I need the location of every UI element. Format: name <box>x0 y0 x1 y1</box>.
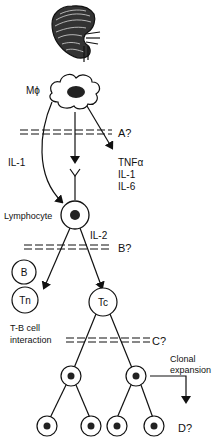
il1-label: IL-1 <box>8 157 26 168</box>
checkpoint-b-line <box>24 245 112 249</box>
tc-cell-label: Tc <box>98 297 108 308</box>
tb-interaction-label-1: T-B cell <box>10 323 40 333</box>
clonal-expansion-label-2: expansion <box>170 365 211 375</box>
clone-cell-l2-left <box>61 366 81 386</box>
tc-cell: Tc <box>89 288 117 316</box>
clone-branches <box>50 385 153 418</box>
tc-branches <box>74 314 132 368</box>
clone-cell-l3-2 <box>81 416 101 436</box>
clone-cell-l3-3 <box>107 416 127 436</box>
macrophage-nucleus <box>67 86 85 98</box>
il1-arrow <box>42 102 62 202</box>
checkpoint-d-label: D? <box>178 422 192 434</box>
macrophage-label: Mϕ <box>26 85 40 96</box>
kidney-icon <box>52 6 100 62</box>
cytokine-il1: IL-1 <box>118 169 136 180</box>
checkpoint-a-line <box>20 130 112 134</box>
arrow-to-b-tn <box>44 228 70 288</box>
b-cell-label: B <box>21 267 28 278</box>
clone-cell-l3-4 <box>144 416 164 436</box>
lymphocyte-label: Lymphocyte <box>4 211 52 221</box>
macrophage-cell <box>50 75 99 109</box>
lymphocyte-cell <box>61 201 89 229</box>
clonal-expansion-label-1: Clonal <box>170 354 196 364</box>
tb-interaction-label-2: interaction <box>10 335 52 345</box>
receptor-icon <box>70 169 80 200</box>
tn-cell: Tn <box>12 287 38 313</box>
checkpoint-b-label: B? <box>118 242 131 254</box>
cytokine-tnf: TNFα <box>118 157 143 168</box>
cytokine-arrow <box>87 106 112 148</box>
checkpoint-a-label: A? <box>118 127 131 139</box>
diagram-canvas: Mϕ A? TNFα IL-1 IL-6 IL-1 Lymphocyte IL-… <box>0 0 217 442</box>
checkpoint-c-line <box>66 338 150 342</box>
clonal-expansion-arrow <box>150 376 186 402</box>
clone-cell-l2-right <box>126 366 146 386</box>
b-cell: B <box>12 260 36 284</box>
clone-cell-l3-1 <box>37 416 57 436</box>
cytokine-il6: IL-6 <box>118 181 136 192</box>
checkpoint-c-label: C? <box>152 335 166 347</box>
il2-label: IL-2 <box>90 230 108 241</box>
tn-cell-label: Tn <box>19 295 31 306</box>
